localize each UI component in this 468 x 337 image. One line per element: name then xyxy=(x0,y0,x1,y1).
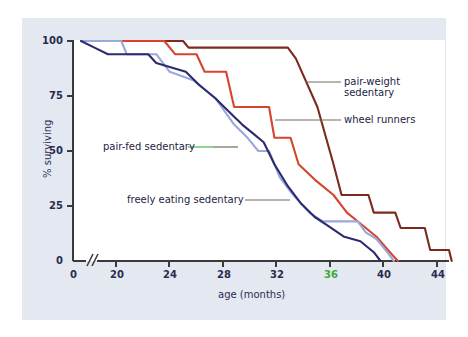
x-tick-label-0: 0 xyxy=(70,269,77,280)
chart-svg xyxy=(0,0,468,337)
x-tick-label-44: 44 xyxy=(431,269,445,280)
annotation-pair-weight-line1: pair-weight xyxy=(344,76,400,87)
x-tick-label-20: 20 xyxy=(110,269,124,280)
y-tick-label-25: 25 xyxy=(49,200,63,211)
x-tick-label-24: 24 xyxy=(163,269,177,280)
x-axis-title: age (months) xyxy=(218,289,285,300)
y-tick-label-0: 0 xyxy=(56,255,63,266)
y-tick-label-75: 75 xyxy=(49,90,63,101)
x-tick-label-32: 32 xyxy=(270,269,284,280)
annotation-pair-weight-line2: sedentary xyxy=(344,87,394,98)
x-tick-label-36: 36 xyxy=(324,269,338,280)
x-tick-label-40: 40 xyxy=(377,269,391,280)
axes xyxy=(73,40,449,266)
annotation-pair-fed-sedentary: pair-fed sedentary xyxy=(103,141,195,152)
y-tick-label-100: 100 xyxy=(42,35,63,46)
x-tick-label-28: 28 xyxy=(217,269,231,280)
annotation-freely-eating-sedentary: freely eating sedentary xyxy=(127,194,244,205)
y-tick-label-50: 50 xyxy=(49,145,63,156)
annotation-wheel-runners: wheel runners xyxy=(344,114,415,125)
figure-container: % surviving 100 75 50 25 0 0 20 24 28 32… xyxy=(0,0,468,337)
